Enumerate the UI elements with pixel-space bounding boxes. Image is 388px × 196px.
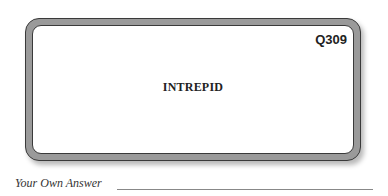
- question-id: Q309: [315, 32, 347, 47]
- answer-label: Your Own Answer: [15, 176, 102, 191]
- question-card: Q309 INTREPID: [25, 18, 361, 161]
- answer-blank-line[interactable]: [117, 189, 373, 190]
- card-face: Q309 INTREPID: [32, 25, 354, 154]
- answer-row: Your Own Answer: [15, 176, 373, 192]
- vocabulary-word: INTREPID: [33, 80, 353, 95]
